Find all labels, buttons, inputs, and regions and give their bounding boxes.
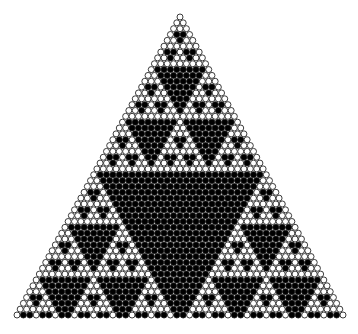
figure-container: Pascal's Triangle Modular Circle Fractal… [0, 0, 358, 334]
pascal-triangle-fractal-canvas [0, 0, 358, 334]
